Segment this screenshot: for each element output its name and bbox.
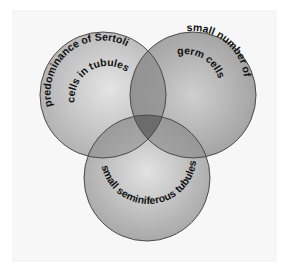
venn-diagram: predominance of Sertoli cells in tubules…	[0, 0, 291, 270]
venn-diagram-page: predominance of Sertoli cells in tubules…	[0, 0, 291, 270]
